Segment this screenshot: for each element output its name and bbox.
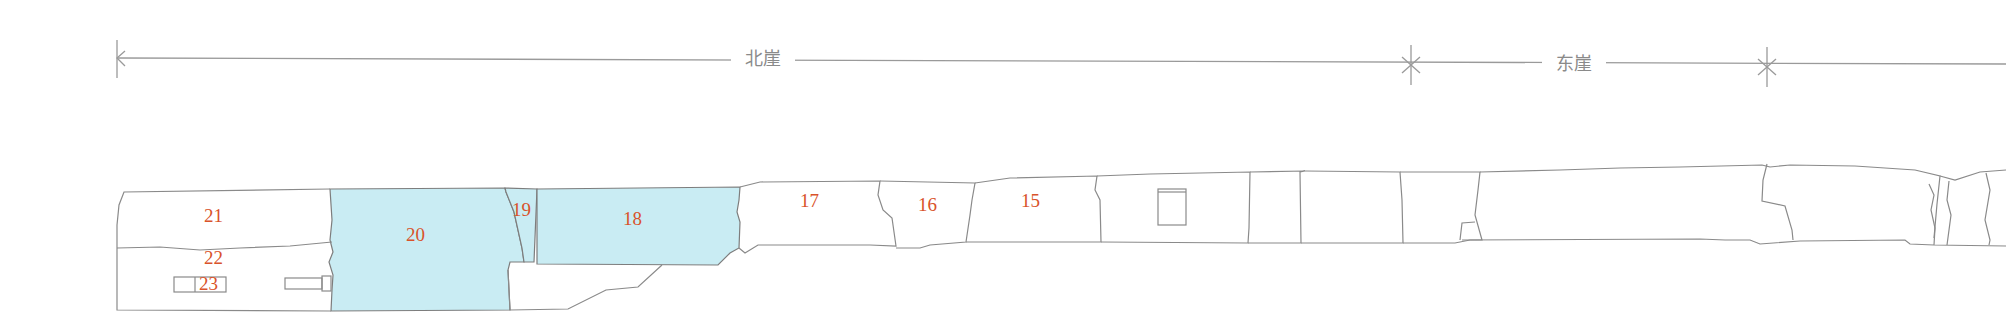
north-cliff-label: 北崖	[731, 49, 795, 69]
segment-divider-icon	[1402, 45, 1420, 85]
region-20-shape	[329, 188, 524, 311]
highlighted-regions	[329, 187, 740, 311]
region-label-15: 15	[1021, 191, 1040, 211]
dimension-line	[117, 40, 2006, 87]
region-label-17: 17	[800, 191, 819, 211]
region-label-21: 21	[204, 206, 223, 226]
region-label-19: 19	[512, 200, 531, 220]
segment-divider-icon	[1758, 47, 1776, 87]
region-label-16: 16	[918, 195, 937, 215]
east-cliff-label: 东崖	[1542, 54, 1606, 74]
region-label-22: 22	[204, 248, 223, 268]
diagram-canvas	[0, 0, 2006, 320]
cliff-elevation-diagram: 北崖 东崖 21 22 23 20 19 18 17 16 15	[0, 0, 2006, 320]
region-label-23: 23	[199, 274, 218, 294]
region-label-18: 18	[623, 209, 642, 229]
region-label-20: 20	[406, 225, 425, 245]
